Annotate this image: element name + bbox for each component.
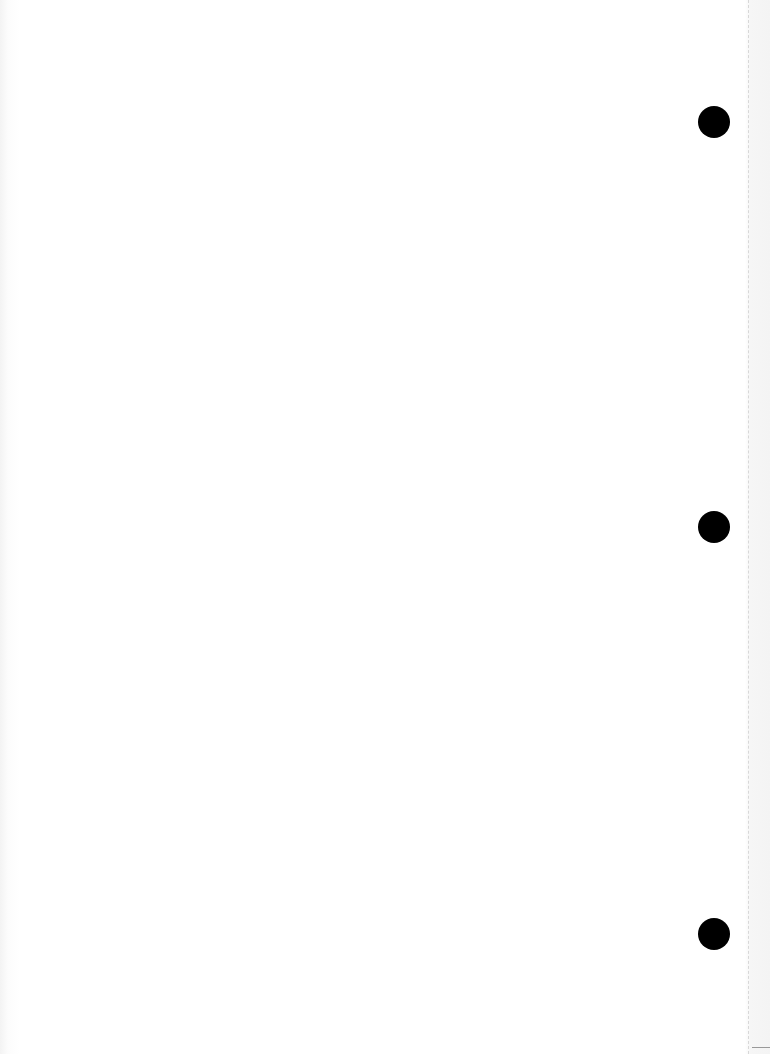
page-edge-dashed-line: [748, 0, 749, 1054]
binder-hole-top: [698, 106, 730, 138]
binder-hole-middle: [698, 511, 730, 543]
corner-mark: [752, 1047, 770, 1048]
binder-hole-bottom: [698, 918, 730, 950]
scanned-page: [0, 0, 770, 1054]
